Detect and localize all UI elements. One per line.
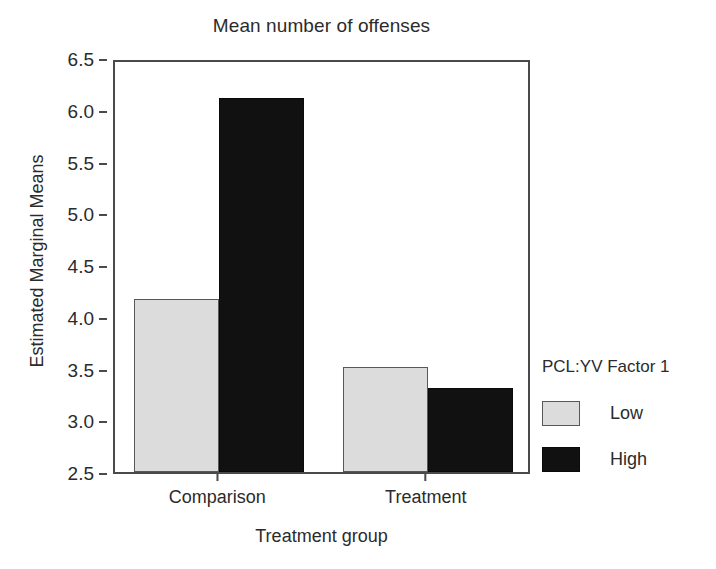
y-axis-tick-label: 2.5 bbox=[68, 462, 94, 486]
y-axis-tick-label: 4.0 bbox=[68, 307, 94, 331]
x-axis: ComparisonTreatment bbox=[113, 474, 530, 514]
y-axis-tick-mark bbox=[99, 370, 107, 372]
x-axis-tick: Treatment bbox=[385, 474, 466, 508]
legend-item-high[interactable]: High bbox=[542, 442, 712, 476]
bar-comparison-high bbox=[219, 98, 304, 472]
y-axis-tick-mark bbox=[99, 59, 107, 61]
x-axis-tick-label: Treatment bbox=[385, 486, 466, 508]
y-axis-tick-label: 6.5 bbox=[68, 48, 94, 72]
y-axis: 2.53.03.54.04.55.05.56.06.5 bbox=[0, 60, 113, 474]
y-axis-tick-label: 6.0 bbox=[68, 100, 94, 124]
legend-label: High bbox=[610, 448, 647, 470]
legend: PCL:YV Factor 1 LowHigh bbox=[542, 356, 712, 488]
legend-entries: LowHigh bbox=[542, 396, 712, 476]
bar-treatment-low bbox=[343, 367, 428, 472]
x-axis-title: Treatment group bbox=[113, 525, 530, 547]
y-axis-tick-mark bbox=[99, 111, 107, 113]
plot-area bbox=[113, 60, 530, 474]
x-axis-tick-mark bbox=[425, 474, 427, 481]
y-axis-tick-mark bbox=[99, 318, 107, 320]
y-axis-tick-mark bbox=[99, 163, 107, 165]
legend-swatch-low bbox=[542, 401, 580, 426]
y-axis-tick-mark bbox=[99, 214, 107, 216]
x-axis-tick-label: Comparison bbox=[169, 486, 266, 508]
chart-figure: Mean number of offenses Estimated Margin… bbox=[0, 0, 716, 569]
y-axis-tick-label: 3.0 bbox=[68, 410, 94, 434]
x-axis-tick-mark bbox=[216, 474, 218, 481]
plot-inner bbox=[115, 62, 528, 472]
y-axis-tick-label: 3.5 bbox=[68, 359, 94, 383]
y-axis-tick-mark bbox=[99, 473, 107, 475]
legend-item-low[interactable]: Low bbox=[542, 396, 712, 430]
x-axis-tick: Comparison bbox=[169, 474, 266, 508]
chart-title: Mean number of offenses bbox=[113, 14, 530, 38]
bar-treatment-high bbox=[428, 388, 513, 472]
legend-swatch-high bbox=[542, 447, 580, 472]
y-axis-tick-label: 4.5 bbox=[68, 255, 94, 279]
bar-comparison-low bbox=[134, 299, 219, 472]
y-axis-tick-mark bbox=[99, 266, 107, 268]
legend-label: Low bbox=[610, 402, 643, 424]
y-axis-tick-label: 5.0 bbox=[68, 203, 94, 227]
y-axis-tick-mark bbox=[99, 421, 107, 423]
legend-title: PCL:YV Factor 1 bbox=[542, 356, 712, 378]
y-axis-tick-label: 5.5 bbox=[68, 152, 94, 176]
